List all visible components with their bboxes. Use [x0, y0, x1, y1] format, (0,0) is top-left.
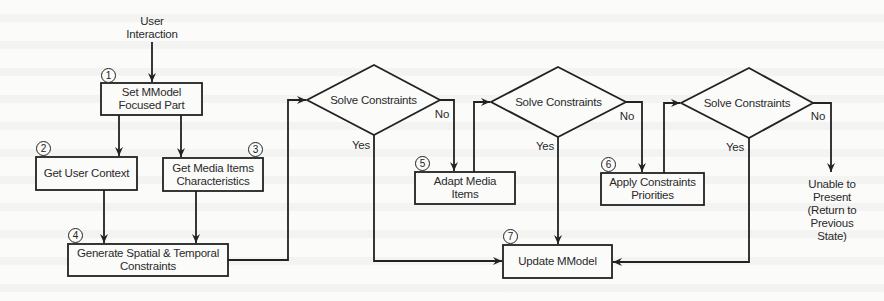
- d2-yes-label: Yes: [534, 140, 556, 153]
- decision-d1-label: Solve Constraints: [307, 90, 440, 110]
- d3-yes-label: Yes: [724, 141, 746, 154]
- step-number-6: 6: [601, 157, 616, 172]
- step-number-1: 1: [101, 68, 116, 83]
- box-n3-label: Get Media Items Characteristics: [163, 158, 263, 191]
- step-number-7: 7: [503, 229, 518, 244]
- terminal-unable-to-present: Unable to Present (Return to Previous St…: [797, 178, 867, 243]
- step-number-4: 4: [68, 228, 83, 243]
- d3-no-label: No: [808, 110, 828, 123]
- box-n5-label: Adapt Media Items: [415, 172, 515, 204]
- start-label: User Interaction: [117, 15, 187, 41]
- box-n1-label: Set MModel Focused Part: [101, 83, 202, 115]
- edge-n5-to-d2: [474, 102, 490, 172]
- step-number-2: 2: [36, 141, 51, 156]
- d1-yes-label: Yes: [350, 139, 372, 152]
- box-n6-label: Apply Constraints Priorities: [601, 173, 704, 205]
- step-number-3: 3: [248, 142, 263, 157]
- decision-d2-label: Solve Constraints: [491, 92, 626, 112]
- box-n2-label: Get User Context: [36, 157, 137, 190]
- d2-no-label: No: [617, 110, 637, 123]
- edge-n6-to-d3: [664, 103, 680, 173]
- box-n4-label: Generate Spatial & Temporal Constraints: [68, 244, 228, 276]
- d1-no-label: No: [432, 108, 452, 121]
- decision-d3-label: Solve Constraints: [681, 93, 813, 113]
- box-n7-label: Update MModel: [503, 245, 612, 278]
- step-number-5: 5: [415, 156, 430, 171]
